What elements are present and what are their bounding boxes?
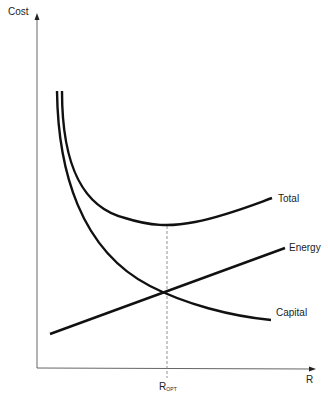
x-axis-arrow-icon [309, 367, 316, 372]
total-curve [62, 91, 272, 225]
total-label: Total [278, 193, 299, 204]
energy-line [50, 248, 285, 334]
energy-label: Energy [289, 242, 321, 253]
r-opt-subscript: OPT [166, 386, 177, 392]
capital-label: Capital [276, 307, 307, 318]
capital-curve [57, 91, 271, 320]
y-axis-arrow-icon [35, 13, 40, 20]
cost-optimization-diagram: Cost R ROPT Total Energy Capital [0, 0, 328, 397]
axes [35, 13, 317, 372]
x-axis-label: R [306, 374, 313, 385]
y-axis-label: Cost [8, 6, 29, 17]
r-opt-label: ROPT [159, 381, 177, 392]
